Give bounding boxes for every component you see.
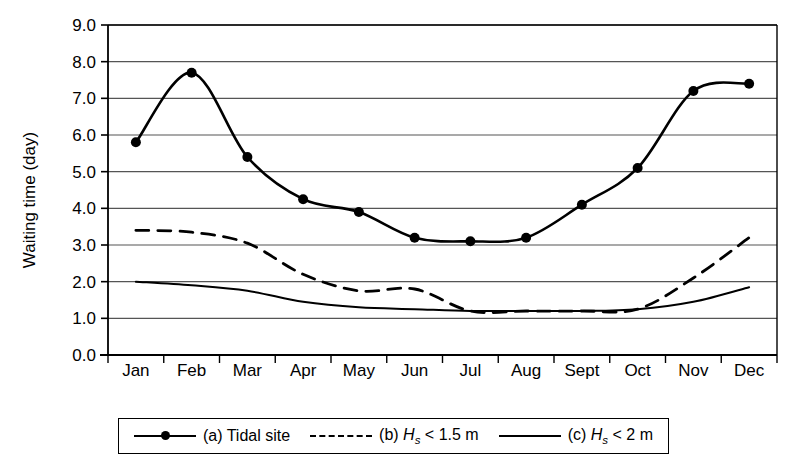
legend-label-b: (b) Hs < 1.5 m	[379, 426, 479, 446]
series-line-b	[136, 230, 749, 312]
legend-item-b: (b) Hs < 1.5 m	[310, 426, 499, 446]
legend-swatch-solid-marker-icon	[134, 429, 196, 443]
legend-label-a: (a) Tidal site	[203, 427, 290, 445]
series-marker-a	[410, 233, 420, 243]
series-marker-a	[521, 233, 531, 243]
series-marker-a	[298, 194, 308, 204]
series-marker-a	[187, 68, 197, 78]
series-marker-a	[744, 79, 754, 89]
series-line-c	[136, 282, 749, 311]
series-marker-a	[242, 152, 252, 162]
plot-area	[0, 0, 797, 473]
chart-figure: Waiting time (day) 0.01.02.03.04.05.06.0…	[0, 0, 797, 473]
series-marker-a	[354, 207, 364, 217]
legend-label-c: (c) Hs < 2 m	[568, 426, 653, 446]
series-marker-a	[633, 163, 643, 173]
legend-item-c: (c) Hs < 2 m	[499, 426, 653, 446]
series-marker-a	[688, 86, 698, 96]
legend-swatch-solid-icon	[499, 429, 561, 443]
series-marker-a	[577, 200, 587, 210]
chart-legend: (a) Tidal site (b) Hs < 1.5 m (c) Hs < 2…	[118, 418, 669, 454]
series-marker-a	[131, 137, 141, 147]
legend-swatch-dashed-icon	[310, 429, 372, 443]
legend-item-a: (a) Tidal site	[134, 427, 310, 445]
series-marker-a	[465, 236, 475, 246]
